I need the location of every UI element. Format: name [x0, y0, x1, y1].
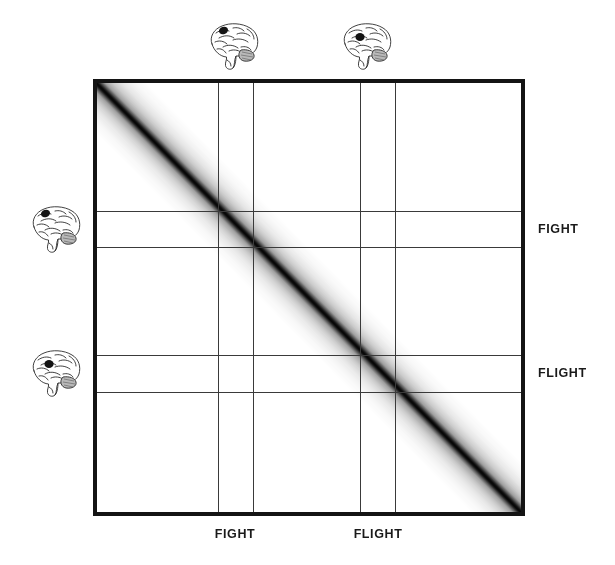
y-axis-label-flight: FLIGHT — [538, 366, 587, 380]
diagonal-band-halo — [97, 83, 521, 512]
diagonal-band-core — [97, 83, 521, 512]
gridline-h-flight-end — [97, 392, 521, 393]
gridline-v-fight-end — [253, 83, 254, 512]
y-axis-label-fight: FIGHT — [538, 222, 579, 236]
x-axis-label-flight: FLIGHT — [354, 527, 403, 541]
gridline-v-flight-start — [360, 83, 361, 512]
diagonal-band-layer — [97, 298, 521, 513]
brain-icon-fight-top — [203, 20, 265, 72]
gridline-h-fight-end — [97, 247, 521, 248]
figure-root: FIGHT FLIGHT FIGHT FLIGHT — [0, 0, 615, 565]
brain-icon-fight-left — [25, 203, 87, 255]
plot-inner — [97, 83, 521, 512]
gridline-h-flight-start — [97, 355, 521, 356]
x-axis-label-fight: FIGHT — [215, 527, 256, 541]
brain-activation-spot — [355, 33, 364, 41]
gridline-v-fight-start — [218, 83, 219, 512]
halftone-grain-overlay — [97, 83, 521, 512]
brain-icon-flight-top — [336, 20, 398, 72]
brain-icon-flight-left — [25, 347, 87, 399]
gridline-v-flight-end — [395, 83, 396, 512]
plot-frame — [93, 79, 525, 516]
brain-activation-spot — [44, 360, 53, 368]
gridline-h-fight-start — [97, 211, 521, 212]
